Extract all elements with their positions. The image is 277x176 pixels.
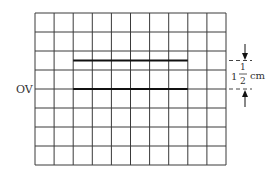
annotation-unit: cm xyxy=(250,70,266,81)
annotation-denominator: 2 xyxy=(240,76,246,86)
annotation-numerator: 1 xyxy=(240,62,246,72)
measurement-annotation: 1 1 2 cm xyxy=(229,44,266,107)
up-arrow-icon xyxy=(242,90,248,97)
annotation-whole: 1 xyxy=(231,71,237,82)
down-arrow-icon xyxy=(242,53,248,60)
zero-line-label: OV xyxy=(16,83,34,96)
oscilloscope-diagram: OV 1 1 2 cm xyxy=(0,0,277,176)
